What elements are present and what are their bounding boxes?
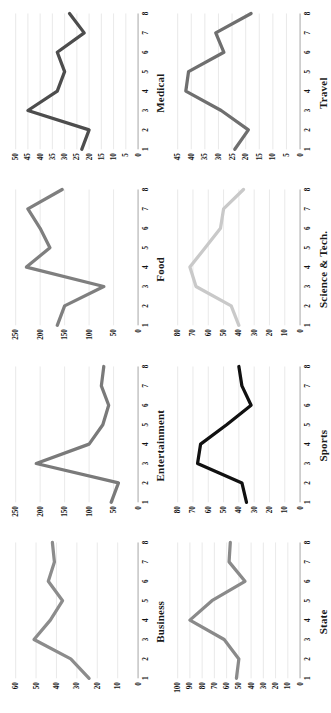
y-axis-tick-label: 150 bbox=[61, 505, 69, 516]
chart-svg: 010203040506012345678 bbox=[8, 537, 153, 707]
y-axis-tick-label: 150 bbox=[61, 329, 69, 340]
x-axis-tick-label: 8 bbox=[304, 188, 312, 192]
x-axis-tick-label: 6 bbox=[142, 50, 150, 54]
series-line bbox=[26, 190, 103, 326]
x-axis-tick-label: 6 bbox=[304, 227, 312, 231]
chart-svg: 0102030405060708012345678 bbox=[170, 184, 315, 354]
series-line bbox=[190, 542, 245, 678]
y-axis-tick-label: 40 bbox=[53, 682, 61, 690]
chart-title: Medical bbox=[153, 8, 166, 178]
y-axis-tick-label: 10 bbox=[282, 329, 290, 337]
plot-area: 010203040506070809010012345678 bbox=[170, 537, 315, 707]
x-axis-tick-label: 5 bbox=[142, 422, 150, 426]
y-axis-tick-label: 0 bbox=[297, 153, 305, 157]
x-axis-tick-label: 7 bbox=[304, 560, 312, 564]
y-axis-tick-label: 50 bbox=[12, 153, 20, 161]
chart-title: Science & Tech. bbox=[316, 184, 329, 354]
x-axis-tick-label: 5 bbox=[304, 70, 312, 74]
series-line bbox=[28, 14, 89, 150]
x-axis-tick-label: 7 bbox=[142, 560, 150, 564]
y-axis-tick-label: 250 bbox=[12, 329, 20, 340]
x-axis-tick-label: 5 bbox=[304, 246, 312, 250]
chart-panel-travel: 05101520253035404512345678Travel bbox=[168, 4, 330, 180]
x-axis-tick-label: 3 bbox=[304, 285, 312, 289]
y-axis-tick-label: 20 bbox=[272, 682, 280, 690]
y-axis-tick-label: 0 bbox=[135, 153, 143, 157]
y-axis-tick-label: 90 bbox=[187, 682, 195, 690]
x-axis-tick-label: 3 bbox=[304, 461, 312, 465]
x-axis-tick-label: 1 bbox=[304, 500, 312, 504]
plot-area: 05010015020025012345678 bbox=[8, 361, 153, 531]
x-axis-tick-label: 2 bbox=[142, 480, 150, 484]
chart-panel-medical: 0510152025303540455012345678Medical bbox=[6, 4, 168, 180]
x-axis-tick-label: 2 bbox=[304, 304, 312, 308]
plot-area: 0102030405060708012345678 bbox=[170, 184, 315, 354]
x-axis-tick-label: 6 bbox=[304, 50, 312, 54]
y-axis-tick-label: 100 bbox=[175, 682, 183, 693]
x-axis-tick-label: 3 bbox=[142, 637, 150, 641]
y-axis-tick-label: 0 bbox=[135, 329, 143, 333]
x-axis-tick-label: 8 bbox=[304, 12, 312, 16]
y-axis-tick-label: 60 bbox=[12, 682, 20, 690]
plot-area: 010203040506012345678 bbox=[8, 537, 153, 707]
y-axis-tick-label: 45 bbox=[175, 153, 183, 161]
x-axis-tick-label: 7 bbox=[304, 383, 312, 387]
chart-title: Travel bbox=[316, 8, 329, 178]
y-axis-tick-label: 20 bbox=[266, 329, 274, 337]
y-axis-tick-label: 30 bbox=[251, 505, 259, 513]
x-axis-tick-label: 8 bbox=[142, 188, 150, 192]
y-axis-tick-label: 10 bbox=[270, 153, 278, 161]
x-axis-tick-label: 8 bbox=[142, 540, 150, 544]
x-axis-tick-label: 1 bbox=[142, 147, 150, 151]
chart-svg: 05101520253035404512345678 bbox=[170, 8, 315, 178]
y-axis-tick-label: 60 bbox=[205, 505, 213, 513]
x-axis-tick-label: 3 bbox=[142, 285, 150, 289]
series-line bbox=[36, 366, 118, 502]
x-axis-tick-label: 4 bbox=[142, 89, 150, 93]
y-axis-tick-label: 5 bbox=[122, 153, 130, 157]
y-axis-tick-label: 25 bbox=[73, 153, 81, 161]
x-axis-tick-label: 6 bbox=[304, 579, 312, 583]
x-axis-tick-label: 8 bbox=[304, 364, 312, 368]
y-axis-tick-label: 30 bbox=[61, 153, 69, 161]
x-axis-tick-label: 1 bbox=[142, 676, 150, 680]
x-axis-tick-label: 4 bbox=[304, 618, 312, 622]
x-axis-tick-label: 2 bbox=[304, 657, 312, 661]
y-axis-tick-label: 60 bbox=[223, 682, 231, 690]
y-axis-tick-label: 0 bbox=[297, 329, 305, 333]
x-axis-tick-label: 3 bbox=[142, 109, 150, 113]
y-axis-tick-label: 30 bbox=[73, 682, 81, 690]
x-axis-tick-label: 7 bbox=[142, 383, 150, 387]
x-axis-tick-label: 2 bbox=[142, 657, 150, 661]
x-axis-tick-label: 7 bbox=[142, 31, 150, 35]
y-axis-tick-label: 80 bbox=[199, 682, 207, 690]
x-axis-tick-label: 2 bbox=[304, 480, 312, 484]
y-axis-tick-label: 20 bbox=[266, 505, 274, 513]
plot-area: 0510152025303540455012345678 bbox=[8, 8, 153, 178]
chart-svg: 0102030405060708012345678 bbox=[170, 361, 315, 531]
x-axis-tick-label: 6 bbox=[142, 579, 150, 583]
chart-title: Business bbox=[153, 537, 166, 707]
y-axis-tick-label: 200 bbox=[37, 329, 45, 340]
x-axis-tick-label: 4 bbox=[142, 618, 150, 622]
x-axis-tick-label: 6 bbox=[142, 403, 150, 407]
y-axis-tick-label: 0 bbox=[135, 682, 143, 686]
y-axis-tick-label: 45 bbox=[24, 153, 32, 161]
y-axis-tick-label: 10 bbox=[114, 682, 122, 690]
plot-area: 0102030405060708012345678 bbox=[170, 361, 315, 531]
chart-svg: 05010015020025012345678 bbox=[8, 184, 153, 354]
x-axis-tick-label: 5 bbox=[304, 422, 312, 426]
x-axis-tick-label: 4 bbox=[304, 89, 312, 93]
x-axis-tick-label: 2 bbox=[142, 304, 150, 308]
chart-panel-science-tech: 0102030405060708012345678Science & Tech. bbox=[168, 180, 330, 356]
series-line bbox=[190, 190, 244, 326]
y-axis-tick-label: 0 bbox=[135, 505, 143, 509]
y-axis-tick-label: 15 bbox=[98, 153, 106, 161]
x-axis-tick-label: 8 bbox=[142, 364, 150, 368]
y-axis-tick-label: 40 bbox=[236, 505, 244, 513]
x-axis-tick-label: 7 bbox=[304, 207, 312, 211]
x-axis-tick-label: 7 bbox=[304, 31, 312, 35]
y-axis-tick-label: 20 bbox=[94, 682, 102, 690]
x-axis-tick-label: 8 bbox=[304, 540, 312, 544]
